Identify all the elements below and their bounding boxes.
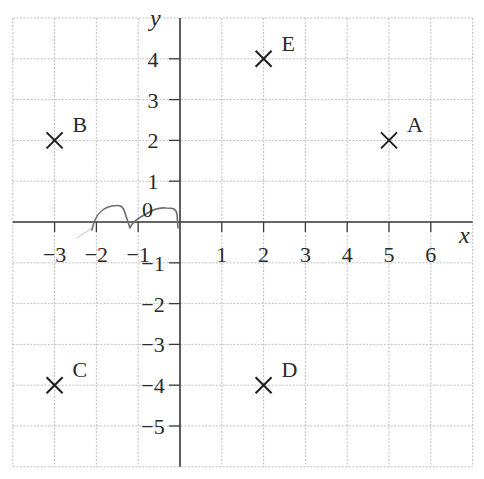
point-label: D: [282, 357, 298, 382]
origin-label: 0: [142, 197, 153, 222]
tick-labels: −3−2−1123456−5−4−3−2−11234: [43, 47, 436, 439]
x-tick-label: 5: [384, 242, 395, 267]
x-tick-label: 6: [425, 242, 436, 267]
x-tick-label: 1: [216, 242, 227, 267]
x-tick-label: 3: [300, 242, 311, 267]
point-c: C: [47, 357, 88, 393]
point-label: C: [73, 357, 88, 382]
coordinate-plane: −3−2−1123456−5−4−3−2−11234 ABCDE x y 0: [0, 0, 484, 479]
y-tick-label: −5: [141, 414, 164, 439]
point-b: B: [47, 112, 88, 148]
point-label: A: [407, 112, 423, 137]
x-tick-label: −2: [85, 242, 108, 267]
y-tick-label: −2: [141, 292, 164, 317]
y-tick-label: 4: [148, 47, 159, 72]
y-tick-label: −3: [141, 332, 164, 357]
y-axis-label: y: [148, 5, 161, 31]
handwritten-scribble-tail: [77, 228, 92, 238]
tick-marks: [55, 59, 431, 426]
grid-lines: [13, 18, 473, 467]
point-label: B: [73, 112, 88, 137]
point-d: D: [256, 357, 298, 393]
y-tick-label: −1: [141, 251, 164, 276]
y-tick-label: 2: [148, 128, 159, 153]
plotted-points: ABCDE: [47, 31, 423, 393]
y-tick-label: 1: [148, 169, 159, 194]
point-a: A: [381, 112, 423, 148]
x-tick-label: 4: [342, 242, 353, 267]
x-tick-label: 2: [258, 242, 269, 267]
point-label: E: [282, 31, 295, 56]
axes: [13, 18, 473, 467]
handwritten-scribble: [92, 205, 178, 230]
y-tick-label: −4: [141, 373, 164, 398]
x-axis-label: x: [458, 222, 470, 248]
y-tick-label: 3: [148, 88, 159, 113]
x-tick-label: −3: [43, 242, 66, 267]
point-e: E: [256, 31, 295, 67]
